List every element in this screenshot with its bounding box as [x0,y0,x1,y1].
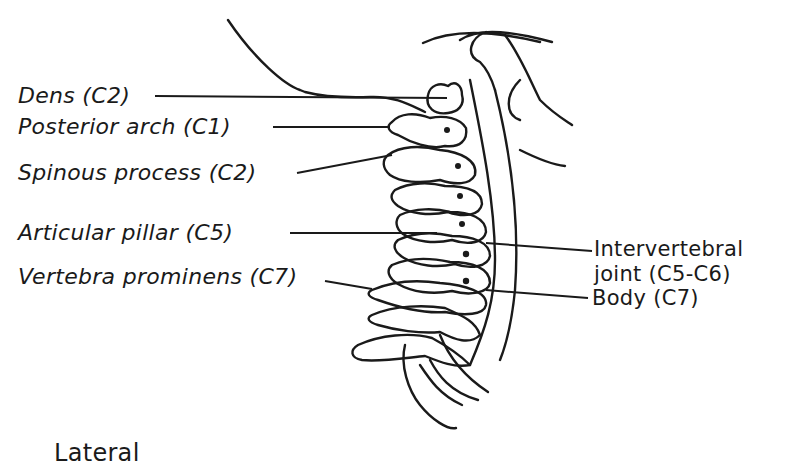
label-dens: Dens (C2) [18,85,130,107]
label-vertebra-prominens: Vertebra prominens (C7) [18,266,297,288]
label-body-c7: Body (C7) [592,288,699,309]
pharynx-line [495,90,516,360]
view-caption: Lateral [54,441,140,465]
skull-base-outline [423,32,552,90]
leader-line-intervertebral-joint [486,243,592,251]
body-c7-marker [463,278,469,284]
leader-line-spinous-process [297,155,392,173]
leader-line-vertebra-prominens [325,281,372,289]
label-posterior-arch: Posterior arch (C1) [18,116,231,138]
neck-muscle-curve [509,80,520,120]
label-intervertebral-joint-line2: joint (C5-C6) [594,264,731,285]
leader-line-body [486,290,588,298]
leader-line-dens [155,96,447,98]
occiput-outline [505,35,572,125]
label-intervertebral-joint-line1: Intervertebral [594,239,743,260]
rib-2 [420,365,462,405]
vertebra-t2 [352,335,470,366]
foramen-c1 [444,127,450,133]
label-spinous-process: Spinous process (C2) [18,162,256,184]
label-articular-pillar: Articular pillar (C5) [18,222,233,244]
joint-c5-c6 [463,251,469,257]
cervical-spine-diagram: Dens (C2) Posterior arch (C1) Spinous pr… [0,0,790,465]
vertebra-c2 [384,147,476,183]
vertebra-c6 [389,259,490,293]
